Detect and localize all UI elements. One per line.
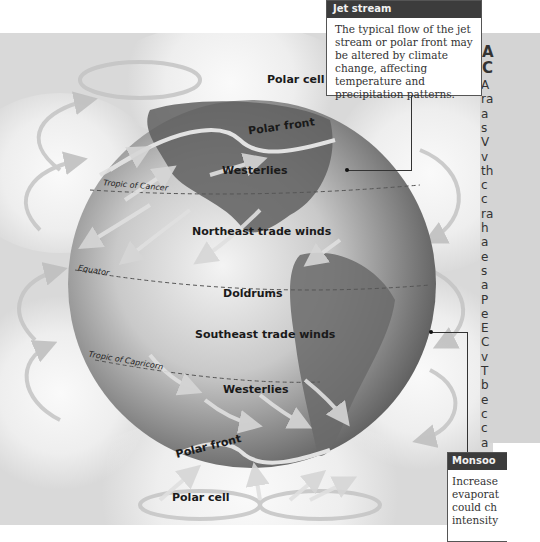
label-northeast-trade-winds: Northeast trade winds <box>192 225 331 238</box>
monsoon-pointer-dot <box>429 330 433 334</box>
label-westerlies-north: Westerlies <box>222 164 287 177</box>
label-polar-cell-south: Polar cell <box>172 491 230 504</box>
jet-stream-leader <box>411 96 412 171</box>
jet-stream-text: The typical flow of the jet stream or po… <box>327 18 481 107</box>
monsoon-title: Monsoo <box>448 453 507 470</box>
monsoon-text-line: intensity <box>452 514 507 527</box>
label-doldrums: Doldrums <box>223 287 283 300</box>
jet-stream-title: Jet stream <box>327 1 481 18</box>
jet-stream-callout: Jet stream The typical flow of the jet s… <box>326 0 482 96</box>
monsoon-callout: Monsoo Increase evaporat could ch intens… <box>447 452 507 542</box>
monsoon-text-line: could ch <box>452 501 507 514</box>
monsoon-text-line: Increase <box>452 475 507 488</box>
label-westerlies-south: Westerlies <box>223 383 288 396</box>
monsoon-text-line: evaporat <box>452 488 507 501</box>
monsoon-leader <box>431 332 468 333</box>
jet-stream-leader <box>347 170 412 171</box>
monsoon-leader <box>467 332 468 452</box>
jet-stream-pointer-dot <box>345 168 349 172</box>
label-southeast-trade-winds: Southeast trade winds <box>195 328 335 341</box>
label-polar-cell-north: Polar cell <box>267 73 325 86</box>
